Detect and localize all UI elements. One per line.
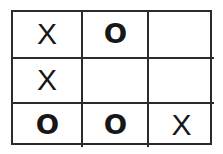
board-cell-middle-center[interactable] bbox=[83, 59, 149, 104]
cell-mark: X bbox=[171, 110, 191, 140]
board-cell-bottom-right[interactable]: X bbox=[149, 104, 214, 147]
tic-tac-toe-board: X O X O O X bbox=[11, 10, 212, 145]
board-cell-bottom-center[interactable]: O bbox=[83, 104, 149, 147]
cell-mark: O bbox=[103, 111, 126, 138]
board-cell-bottom-left[interactable]: O bbox=[13, 104, 83, 147]
cell-mark: X bbox=[37, 19, 57, 49]
board-cell-middle-right[interactable] bbox=[149, 59, 214, 104]
board-cell-top-right[interactable] bbox=[149, 12, 214, 59]
board-cell-top-center[interactable]: O bbox=[83, 12, 149, 59]
cell-mark: O bbox=[35, 111, 58, 138]
cell-mark: O bbox=[103, 20, 126, 47]
board-cell-middle-left[interactable]: X bbox=[13, 59, 83, 104]
cell-mark: X bbox=[37, 65, 57, 95]
board-cell-top-left[interactable]: X bbox=[13, 12, 83, 59]
